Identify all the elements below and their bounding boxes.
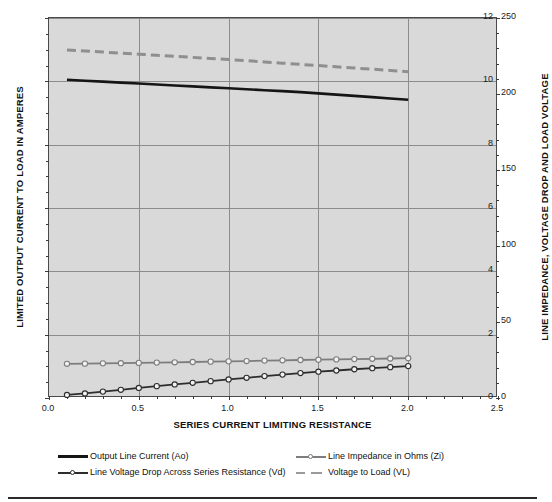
legend-label-vd: Line Voltage Drop Across Series Resistan… bbox=[90, 467, 286, 478]
data-point-marker bbox=[154, 384, 159, 389]
data-point-marker bbox=[82, 361, 87, 366]
series-line bbox=[67, 80, 408, 100]
data-point-marker bbox=[64, 392, 69, 397]
data-point-marker bbox=[352, 356, 357, 361]
data-point-marker bbox=[370, 366, 375, 371]
series-voltage-to-load-vl- bbox=[67, 50, 408, 72]
bottom-tick-label: 0.5 bbox=[118, 404, 158, 413]
right-tick-label: 200 bbox=[501, 88, 531, 97]
series-line bbox=[67, 50, 408, 72]
data-point-marker bbox=[298, 357, 303, 362]
bottom-tick-label: 2.0 bbox=[387, 404, 427, 413]
data-point-marker bbox=[388, 365, 393, 370]
data-point-marker bbox=[190, 380, 195, 385]
chart-legend: Output Line Current (Ao) Line Impedance … bbox=[18, 449, 527, 485]
right-tick-label: 250 bbox=[501, 12, 531, 21]
legend-item-vd: Line Voltage Drop Across Series Resistan… bbox=[58, 467, 286, 478]
data-point-marker bbox=[316, 369, 321, 374]
left-axis-title: LIMITED OUTPUT CURRENT TO LOAD IN AMPERE… bbox=[13, 17, 27, 397]
legend-swatch-dashed-icon bbox=[296, 467, 326, 478]
legend-label-vl: Voltage to Load (VL) bbox=[328, 467, 410, 478]
left-tick-label: 4 bbox=[463, 265, 493, 274]
left-tick-label: 2 bbox=[463, 329, 493, 338]
right-tick-label: 150 bbox=[501, 164, 531, 173]
series-plot bbox=[49, 18, 498, 398]
data-point-marker bbox=[244, 358, 249, 363]
series-line-voltage-drop-across-series-resistance-vd- bbox=[64, 363, 410, 397]
data-point-marker bbox=[208, 379, 213, 384]
data-point-marker bbox=[118, 361, 123, 366]
data-point-marker bbox=[280, 372, 285, 377]
bottom-tick-major bbox=[498, 396, 499, 400]
left-tick-label: 12 bbox=[463, 12, 493, 21]
legend-swatch-marker-icon bbox=[296, 451, 326, 462]
footer-rule bbox=[8, 497, 537, 499]
series-output-line-current-ao- bbox=[67, 80, 408, 100]
right-axis-title: LINE IMPEDANCE, VOLTAGE DROP AND LOAD VO… bbox=[538, 17, 552, 397]
data-point-marker bbox=[208, 359, 213, 364]
legend-label-zi: Line Impedance in Ohms (Zi) bbox=[328, 451, 444, 462]
bottom-tick-label: 2.5 bbox=[477, 404, 517, 413]
data-point-marker bbox=[190, 359, 195, 364]
legend-item-zi: Line Impedance in Ohms (Zi) bbox=[296, 451, 444, 462]
series-line-impedance-in-ohms-zi- bbox=[64, 356, 410, 367]
data-point-marker bbox=[82, 391, 87, 396]
left-tick-label: 8 bbox=[463, 139, 493, 148]
legend-swatch-solid-icon bbox=[58, 451, 88, 462]
left-tick-label: 6 bbox=[463, 202, 493, 211]
data-point-marker bbox=[136, 385, 141, 390]
data-point-marker bbox=[64, 361, 69, 366]
data-point-marker bbox=[100, 361, 105, 366]
data-point-marker bbox=[226, 359, 231, 364]
data-point-marker bbox=[388, 356, 393, 361]
data-point-marker bbox=[316, 357, 321, 362]
data-point-marker bbox=[136, 360, 141, 365]
x-axis-title: SERIES CURRENT LIMITING RESISTANCE bbox=[48, 419, 497, 430]
legend-item-vl: Voltage to Load (VL) bbox=[296, 467, 410, 478]
data-point-marker bbox=[280, 358, 285, 363]
data-point-marker bbox=[244, 375, 249, 380]
bottom-tick-label: 1.5 bbox=[297, 404, 337, 413]
legend-swatch-marker-dark-icon bbox=[58, 467, 88, 478]
data-point-marker bbox=[154, 360, 159, 365]
data-point-marker bbox=[262, 358, 267, 363]
data-point-marker bbox=[370, 356, 375, 361]
right-tick-label: 100 bbox=[501, 240, 531, 249]
right-tick-label: 50 bbox=[501, 316, 531, 325]
left-tick-label: 0 bbox=[463, 392, 493, 401]
data-point-marker bbox=[172, 382, 177, 387]
data-point-marker bbox=[334, 368, 339, 373]
data-point-marker bbox=[262, 374, 267, 379]
data-point-marker bbox=[226, 377, 231, 382]
data-point-marker bbox=[100, 389, 105, 394]
data-point-marker bbox=[298, 370, 303, 375]
legend-label-ao: Output Line Current (Ao) bbox=[90, 451, 189, 462]
data-point-marker bbox=[406, 356, 411, 361]
data-point-marker bbox=[406, 363, 411, 368]
legend-item-ao: Output Line Current (Ao) bbox=[58, 451, 189, 462]
left-tick-label: 10 bbox=[463, 75, 493, 84]
data-point-marker bbox=[172, 360, 177, 365]
plot-area bbox=[48, 17, 497, 397]
bottom-tick-label: 0.0 bbox=[28, 404, 68, 413]
data-point-marker bbox=[334, 357, 339, 362]
right-tick-label: 0 bbox=[501, 392, 531, 401]
data-point-marker bbox=[118, 387, 123, 392]
data-point-marker bbox=[352, 367, 357, 372]
bottom-tick-label: 1.0 bbox=[208, 404, 248, 413]
